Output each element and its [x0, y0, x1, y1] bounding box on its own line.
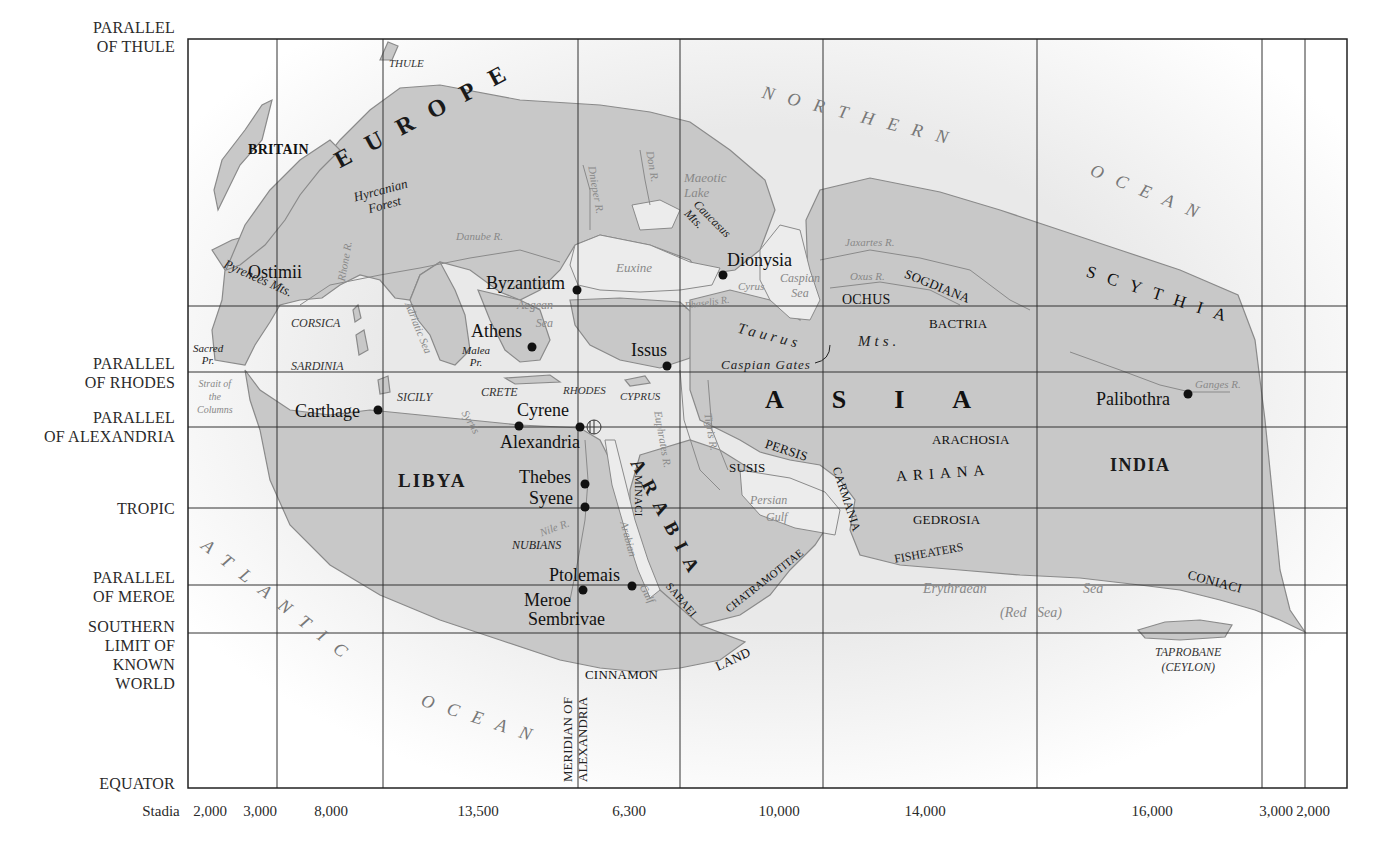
- rhodes-label: RHODES: [563, 384, 606, 396]
- city-issus: Issus: [631, 340, 667, 361]
- sicily-label: SICILY: [397, 390, 432, 405]
- nubians-label: NUBIANS: [512, 538, 561, 553]
- persian-gulf-label: PersianGulf: [750, 492, 787, 526]
- stadia-value: 8,000: [314, 803, 348, 820]
- southern-limit-label: SOUTHERNLIMIT OF KNOWNWORLD: [88, 617, 175, 693]
- city-meroe: Meroe: [524, 590, 571, 611]
- oxus-label: Oxus R.: [850, 270, 885, 282]
- city-marker: [528, 343, 537, 352]
- city-palibothra: Palibothra: [1096, 389, 1170, 410]
- city-cyrene: Cyrene: [517, 400, 569, 421]
- jaxartes-label: Jaxartes R.: [845, 236, 894, 248]
- city-marker: [576, 423, 585, 432]
- britain-label: BRITAIN: [248, 142, 309, 158]
- cinnamon-label: CINNAMON: [585, 667, 658, 683]
- city-marker: [579, 586, 588, 595]
- aegean-label: AegeanSea: [517, 296, 553, 332]
- ganges-label: Ganges R.: [1195, 378, 1241, 390]
- tropic-label: TROPIC: [117, 499, 175, 518]
- corsica-label: CORSICA: [291, 316, 340, 331]
- city-alexandria: Alexandria: [500, 432, 580, 453]
- caspian-sea-label: CaspianSea: [780, 271, 820, 301]
- city-marker: [1184, 390, 1193, 399]
- sacred-pr-label: SacredPr.: [193, 342, 223, 366]
- stadia-value: 13,500: [457, 803, 498, 820]
- city-ptolemais: Ptolemais: [549, 565, 620, 586]
- stadia-value: 14,000: [904, 803, 945, 820]
- erythraean-sea-label: Sea: [1083, 581, 1103, 597]
- city-athens: Athens: [471, 321, 522, 342]
- gedrosia-label: GEDROSIA: [913, 512, 980, 528]
- meridian-of-alexandria-label: MERIDIAN OF ALEXANDRIA: [560, 697, 590, 782]
- red-sea-label: (Red Sea): [1000, 605, 1062, 621]
- city-marker: [515, 422, 524, 431]
- parallel-alexandria-label: PARALLELOF ALEXANDRIA: [44, 408, 175, 446]
- sicily-island: [378, 376, 390, 394]
- city-marker: [573, 286, 582, 295]
- asia-label: ASIA: [765, 385, 1019, 415]
- city-marker: [663, 362, 672, 371]
- city-marker: [374, 406, 383, 415]
- city-carthage: Carthage: [295, 401, 360, 422]
- taurus-mts-label: Mts.: [858, 333, 900, 350]
- maeotic-lake-label: MaeoticLake: [684, 170, 727, 200]
- ochus-label: OCHUS: [842, 292, 890, 308]
- stadia-value: 16,000: [1131, 803, 1172, 820]
- city-marker: [719, 271, 728, 280]
- city-byzantium: Byzantium: [486, 273, 565, 294]
- stadia-value: 3,000: [1259, 803, 1293, 820]
- city-ostimii: Ostimii: [248, 262, 302, 283]
- crete-label: CRETE: [481, 385, 518, 400]
- arachosia-label: ARACHOSIA: [932, 432, 1010, 448]
- cyprus-label: CYPRUS: [620, 390, 660, 402]
- city-syene: Syene: [529, 488, 573, 509]
- city-dionysia: Dionysia: [727, 250, 792, 271]
- india-label: INDIA: [1110, 455, 1171, 476]
- world-map: PARALLELOF THULE PARALLELOF RHODES PARAL…: [0, 0, 1374, 845]
- parallel-rhodes-label: PARALLELOF RHODES: [85, 354, 175, 392]
- map-graphic: [0, 0, 1374, 845]
- cyrus-label: Cyrus: [738, 280, 764, 292]
- city-marker: [628, 582, 637, 591]
- bactria-label: BACTRIA: [929, 316, 987, 332]
- erythraean-label: Erythraean: [923, 581, 987, 597]
- minaci-label: MINACI: [633, 475, 645, 517]
- parallel-meroe-label: PARALLELOF MEROE: [93, 568, 175, 606]
- city-marker: [581, 503, 590, 512]
- caspian-gates-label: Caspian Gates: [721, 357, 811, 373]
- stadia-label: Stadia: [142, 803, 180, 820]
- city-thebes: Thebes: [519, 467, 571, 488]
- malea-label: MaleaPr.: [462, 344, 490, 368]
- susis-label: SUSIS: [729, 460, 765, 476]
- thule-label: THULE: [389, 57, 424, 69]
- sardinia-label: SARDINIA: [291, 359, 344, 374]
- city-marker: [581, 480, 590, 489]
- taprobane-label: TAPROBANE(CEYLON): [1155, 645, 1221, 675]
- parallel-thule-label: PARALLELOF THULE: [93, 18, 175, 56]
- city-sembrivae: Sembrivae: [528, 609, 605, 630]
- equator-label: EQUATOR: [99, 774, 175, 793]
- stadia-value: 6,300: [612, 803, 646, 820]
- stadia-value: 3,000: [243, 803, 277, 820]
- stadia-value: 2,000: [1296, 803, 1330, 820]
- danube-label: Danube R.: [456, 230, 503, 242]
- libya-label: LIBYA: [398, 470, 466, 492]
- stadia-value: 2,000: [193, 803, 227, 820]
- euxine-label: Euxine: [616, 260, 652, 276]
- strait-of-columns-label: Strait oftheColumns: [197, 377, 233, 416]
- stadia-value: 10,000: [758, 803, 799, 820]
